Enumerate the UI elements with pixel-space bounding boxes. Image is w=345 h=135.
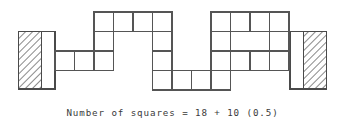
unit-square [114,12,134,32]
unit-square [231,51,251,71]
figure-root: Number of squares = 18 + 10 (0.5) [0,0,345,135]
unit-square [94,12,114,32]
left-end-block [19,32,56,90]
unit-square [250,12,270,32]
unit-square [192,71,212,91]
unit-square [172,71,192,91]
unit-square [270,12,290,32]
unit-square [133,12,153,32]
figure-caption: Number of squares = 18 + 10 (0.5) [0,107,345,118]
unit-square [153,32,173,52]
unit-square [250,51,270,71]
unit-square [55,51,75,71]
left-end-block-hatch-area [19,32,42,90]
unit-square [211,32,231,52]
unit-square [270,32,290,52]
unit-square [153,12,173,32]
right-end-block [290,32,327,90]
unit-square [211,71,231,91]
right-end-block-hatch-area [304,32,327,90]
unit-square [153,71,173,91]
unit-square [75,51,95,71]
left-end-block-plain-area [42,32,56,90]
unit-square [211,51,231,71]
unit-square [94,32,114,52]
unit-square [231,12,251,32]
unit-square [153,51,173,71]
right-end-block-plain-area [290,32,304,90]
unit-square [270,51,290,71]
unit-square [94,51,114,71]
unit-square [211,12,231,32]
